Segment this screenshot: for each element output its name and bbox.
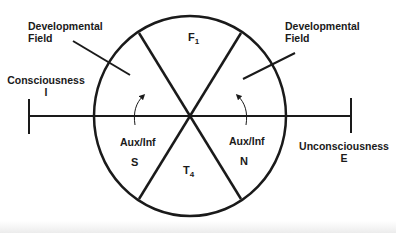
sector-n-label: N — [240, 155, 248, 167]
dev-field-right-line2: Field — [285, 32, 360, 44]
unconsciousness-text: Unconsciousness — [296, 140, 392, 152]
dev-field-left-label: Developmental Field — [28, 20, 103, 44]
dev-field-right-line1: Developmental — [285, 20, 360, 32]
dev-field-left-line2: Field — [28, 32, 103, 44]
dev-field-left-line1: Developmental — [28, 20, 103, 32]
consciousness-text: Consciousness — [4, 74, 88, 86]
page-edge-shadow — [0, 221, 396, 233]
sector-t4-label: T4 — [183, 164, 194, 179]
consciousness-label: Consciousness I — [4, 74, 88, 98]
curved-arrow-right-icon — [238, 96, 247, 125]
f-subscript: 1 — [195, 37, 199, 46]
unconsciousness-code: E — [296, 152, 392, 164]
t-subscript: 4 — [190, 170, 194, 179]
dev-field-right-pointer — [243, 53, 295, 79]
f-letter: F — [188, 31, 195, 43]
t-letter: T — [183, 164, 190, 176]
aux-inf-right-label: Aux/Inf — [229, 135, 265, 147]
curved-arrow-left-icon — [134, 96, 143, 125]
sector-f1-label: F1 — [188, 31, 199, 46]
unconsciousness-label: Unconsciousness E — [296, 140, 392, 164]
consciousness-code: I — [4, 86, 88, 98]
aux-inf-left-label: Aux/Inf — [120, 136, 156, 148]
dev-field-right-label: Developmental Field — [285, 20, 360, 44]
sector-s-label: S — [131, 156, 138, 168]
